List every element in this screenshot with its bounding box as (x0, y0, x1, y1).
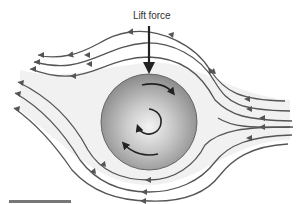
lift-force-label: Lift force (133, 10, 170, 21)
scale-bar (9, 200, 71, 203)
magnus-effect-diagram (0, 0, 303, 204)
